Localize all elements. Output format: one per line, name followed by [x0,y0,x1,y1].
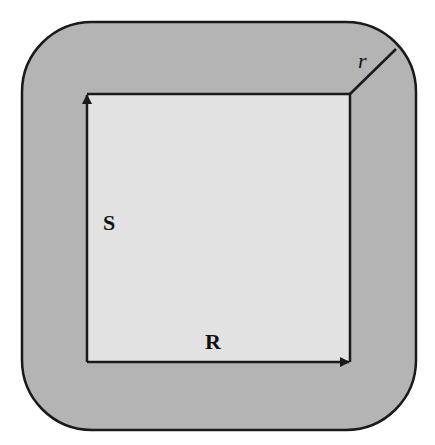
diagram-canvas: S R r [0,0,435,445]
label-corner-radius: r [358,48,367,73]
label-r: R [205,329,222,354]
inner-square [87,94,350,362]
label-s: S [103,210,115,235]
